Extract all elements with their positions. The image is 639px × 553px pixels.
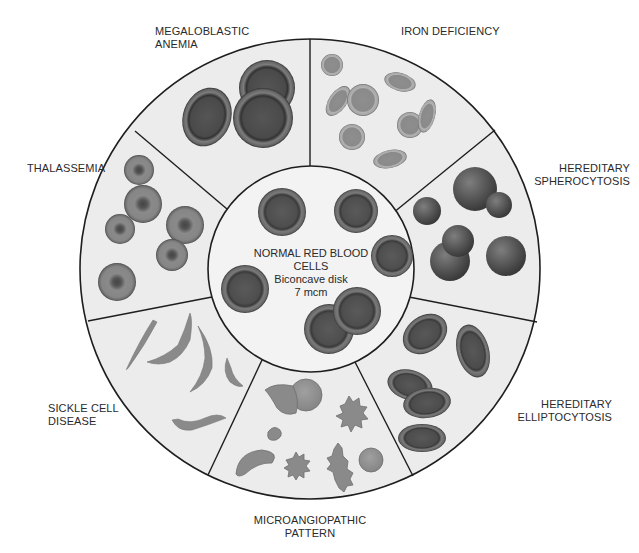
- label-iron-deficiency: IRON DEFICIENCY: [401, 25, 500, 38]
- center-title-line1: NORMAL RED BLOOD: [245, 247, 377, 260]
- center-subtitle: Biconcave disk: [245, 273, 377, 286]
- center-title-line2: CELLS: [245, 260, 377, 273]
- label-thalassemia: THALASSEMIA: [27, 162, 105, 175]
- label-megaloblastic-anemia: MEGALOBLASTIC ANEMIA: [155, 25, 249, 51]
- label-hereditary-spherocytosis: HEREDITARY SPHEROCYTOSIS: [525, 162, 630, 188]
- label-microangiopathic-pattern: MICROANGIOPATHIC PATTERN: [245, 514, 375, 540]
- label-sickle-cell-disease: SICKLE CELL DISEASE: [48, 402, 119, 428]
- label-hereditary-elliptocytosis: HEREDITARY ELLIPTOCYTOSIS: [505, 398, 612, 424]
- center-size: 7 mcm: [245, 286, 377, 299]
- center-label: NORMAL RED BLOOD CELLS Biconcave disk 7 …: [245, 247, 377, 299]
